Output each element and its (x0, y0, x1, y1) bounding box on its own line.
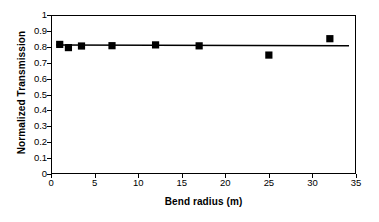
data-point-marker (78, 42, 85, 49)
x-tick-label: 10 (133, 178, 143, 188)
data-point-marker (152, 41, 159, 48)
data-point-marker (56, 41, 63, 48)
x-tick-mark (312, 174, 313, 178)
y-tick-mark (47, 15, 51, 16)
data-point-marker (196, 42, 203, 49)
y-tick-mark (47, 47, 51, 48)
data-point-marker (326, 35, 333, 42)
x-tick-label: 25 (264, 178, 274, 188)
data-point-marker (265, 51, 272, 58)
x-tick-mark (356, 174, 357, 178)
x-tick-label: 35 (351, 178, 361, 188)
x-tick-mark (182, 174, 183, 178)
x-tick-label: 0 (48, 178, 53, 188)
x-tick-label: 5 (92, 178, 97, 188)
y-tick-mark (47, 31, 51, 32)
y-tick-mark (47, 63, 51, 64)
x-tick-mark (51, 174, 52, 178)
data-point-marker (108, 42, 115, 49)
plot-data-layer (51, 15, 356, 174)
x-axis-title: Bend radius (m) (51, 196, 356, 207)
data-point-markers (56, 35, 333, 59)
x-tick-mark (225, 174, 226, 178)
y-tick-mark (47, 95, 51, 96)
x-tick-mark (138, 174, 139, 178)
y-tick-mark (47, 158, 51, 159)
x-tick-label: 20 (220, 178, 230, 188)
data-point-marker (65, 44, 72, 51)
y-tick-mark (47, 126, 51, 127)
y-tick-mark (47, 110, 51, 111)
y-tick-mark (47, 142, 51, 143)
x-axis-tick-labels: 05101520253035 (0, 178, 379, 192)
y-axis-title: Normalized Transmission (16, 13, 27, 172)
chart-figure: 00.10.20.30.40.50.60.70.80.91 0510152025… (0, 0, 379, 222)
x-tick-mark (269, 174, 270, 178)
x-tick-mark (95, 174, 96, 178)
x-tick-label: 30 (307, 178, 317, 188)
y-tick-mark (47, 79, 51, 80)
x-tick-label: 15 (177, 178, 187, 188)
